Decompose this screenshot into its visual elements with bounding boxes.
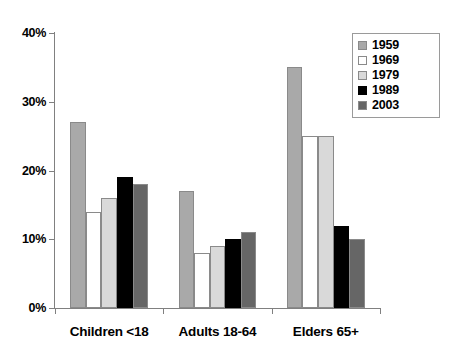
bar [133, 184, 149, 308]
bar [210, 246, 226, 308]
bar [101, 198, 117, 308]
legend-item-label: 1979 [372, 69, 399, 82]
legend-swatch-icon [358, 71, 367, 80]
bar [241, 232, 257, 308]
legend-item-label: 1989 [372, 84, 399, 97]
bar [318, 136, 334, 308]
bar [117, 177, 133, 308]
plot-area [55, 33, 380, 308]
x-axis-tick-mark [380, 308, 381, 314]
y-axis-tick-label: 30% [22, 95, 46, 109]
legend-swatch-icon [358, 86, 367, 95]
legend-swatch-icon [358, 101, 367, 110]
legend-item: 1979 [358, 68, 433, 83]
legend-item: 1959 [358, 38, 433, 53]
bar [349, 239, 365, 308]
bar [302, 136, 318, 308]
x-axis-category-label: Children <18 [55, 324, 163, 339]
bar [86, 212, 102, 308]
legend-item: 2003 [358, 98, 433, 113]
bar [194, 253, 210, 308]
legend-swatch-icon [358, 41, 367, 50]
legend-item-label: 1959 [372, 39, 399, 52]
y-axis-tick-label: 40% [22, 26, 46, 40]
legend-item-label: 2003 [372, 99, 399, 112]
chart-legend: 19591969197919892003 [352, 33, 440, 118]
bar [287, 67, 303, 308]
bar [225, 239, 241, 308]
bar [334, 226, 350, 309]
bar-chart: 0%10%20%30%40% Children <18Adults 18-64E… [0, 0, 449, 358]
bar [70, 122, 86, 308]
y-axis-tick-label: 0% [29, 301, 46, 315]
x-axis-tick-mark [55, 308, 56, 314]
legend-swatch-icon [358, 56, 367, 65]
x-axis-category-label: Adults 18-64 [163, 324, 271, 339]
x-axis-line [54, 308, 381, 309]
y-axis-tick-label: 10% [22, 232, 46, 246]
y-axis-tick-label: 20% [22, 164, 46, 178]
x-axis-tick-mark [163, 308, 164, 314]
legend-item: 1989 [358, 83, 433, 98]
x-axis-tick-mark [272, 308, 273, 314]
legend-item: 1969 [358, 53, 433, 68]
bar [179, 191, 195, 308]
x-axis-category-label: Elders 65+ [272, 324, 380, 339]
legend-item-label: 1969 [372, 54, 399, 67]
